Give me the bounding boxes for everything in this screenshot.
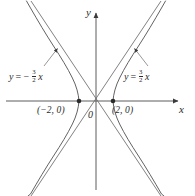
vertex-marker-left	[77, 99, 82, 104]
asymptote-label-left: y = − 3 2 x	[9, 69, 43, 84]
asymptote-left-denominator: 2	[32, 76, 36, 84]
asymptote-right-denominator: 2	[139, 76, 143, 84]
asymptote-label-right: y = 3 2 x	[124, 69, 149, 84]
asymptote-left-fraction: 3 2	[32, 69, 36, 84]
axes-group	[6, 13, 178, 190]
asymptote-right-variable: x	[145, 72, 149, 82]
asymptote-left-sign: −	[24, 72, 30, 82]
asymptote-right-equals: =	[130, 72, 136, 82]
origin-label: 0	[88, 110, 93, 120]
plot-canvas	[0, 0, 195, 196]
x-axis-label: x	[179, 104, 184, 115]
leader-line-left-asymptote	[44, 49, 58, 67]
asymptote-left-numerator: 3	[32, 69, 36, 76]
hyperbola-figure: y = − 3 2 x y = 3 2 x (−2, 0) (2, 0) 0 y…	[0, 0, 195, 196]
asymptote-left-variable: x	[38, 72, 42, 82]
leader-line-right-asymptote	[135, 49, 149, 67]
vertex-label-left: (−2, 0)	[37, 106, 65, 116]
asymptote-right-numerator: 3	[139, 69, 143, 76]
asymptote-left-lhs: y	[9, 72, 13, 82]
asymptote-right-lhs: y	[124, 72, 128, 82]
asymptote-right-fraction: 3 2	[139, 69, 143, 84]
vertex-marker-right	[111, 99, 116, 104]
vertex-label-right: (2, 0)	[112, 106, 133, 116]
asymptote-left-equals: =	[15, 72, 21, 82]
y-axis-label: y	[86, 7, 91, 18]
right-branch-upper	[113, 1, 166, 101]
left-branch-upper	[27, 1, 80, 101]
